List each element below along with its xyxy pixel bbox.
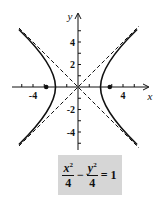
y-axis-label: y [67, 10, 73, 22]
x-axis-label: x [147, 90, 153, 102]
minus-operator: − [77, 168, 84, 183]
term1-exponent: 2 [69, 161, 73, 169]
fraction-y: y2 4 [87, 162, 98, 189]
focus-left [44, 85, 49, 90]
term1-denominator: 4 [65, 176, 71, 189]
x-tick-label-4: 4 [121, 90, 126, 101]
y-tick-label-neg4: -4 [67, 127, 75, 138]
y-tick-label-4: 4 [70, 37, 75, 48]
focus-right [108, 85, 113, 90]
x-tick-label-neg4: -4 [29, 90, 37, 101]
term2-denominator: 4 [89, 176, 95, 189]
fraction-x: x2 4 [62, 162, 74, 189]
term2-exponent: 2 [93, 161, 97, 169]
equals-one: = 1 [101, 168, 117, 183]
y-tick-label-2: 2 [70, 59, 75, 70]
equation-box: x2 4 − y2 4 = 1 [58, 155, 122, 195]
y-tick-label-neg2: -2 [67, 104, 75, 115]
